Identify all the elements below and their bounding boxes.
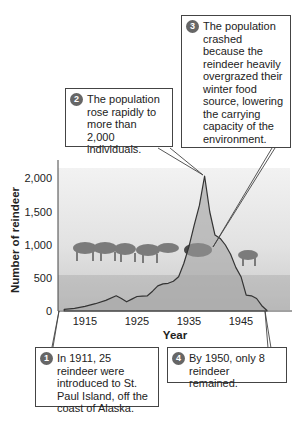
callout-4: 4 By 1950, only 8 reindeer remained. xyxy=(167,347,287,383)
callout-3: 3 The population crashed because the rei… xyxy=(181,15,291,148)
number-badge-1: 1 xyxy=(40,352,53,365)
x-tick: 1935 xyxy=(177,315,201,327)
y-tick: 2,000 xyxy=(24,172,52,184)
y-tick: 0 xyxy=(46,305,52,317)
callout-2-text: The population rose rapidly to more than… xyxy=(87,93,160,155)
callout-1: 1 In 1911, 25 reindeer were introduced t… xyxy=(35,347,159,407)
callout-3-text: The population crashed because the reind… xyxy=(203,20,283,145)
number-badge-4: 4 xyxy=(172,352,185,365)
y-tick: 1,000 xyxy=(24,239,52,251)
x-tick: 1945 xyxy=(229,315,253,327)
y-axis-label: Number of reindeer xyxy=(9,186,21,293)
y-tick: 500 xyxy=(34,272,52,284)
callout-2: 2 The population rose rapidly to more th… xyxy=(65,88,173,147)
number-badge-2: 2 xyxy=(70,93,83,106)
x-axis-label: Year xyxy=(163,329,188,341)
x-tick: 1925 xyxy=(125,315,149,327)
y-tick: 1,500 xyxy=(24,206,52,218)
callout-1-text: In 1911, 25 reindeer were introduced to … xyxy=(57,352,148,414)
x-tick: 1915 xyxy=(73,315,97,327)
number-badge-3: 3 xyxy=(186,20,199,33)
